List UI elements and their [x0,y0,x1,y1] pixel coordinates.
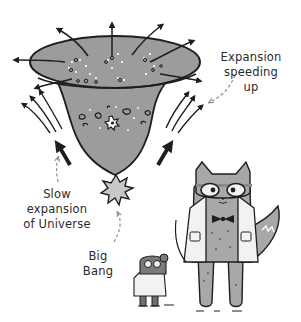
left-expansion-arrows [23,91,62,133]
label-line: up [210,80,292,95]
universe-expansion-illustration: Expansion speeding up Slow expansion of … [0,0,301,322]
label-big-bang: Big Bang [78,249,118,279]
label-line: Slow [14,187,100,202]
label-slow-expansion: Slow expansion of Universe [14,187,100,232]
label-line: of Universe [14,217,100,232]
starburst-icon [101,175,133,205]
label-line: Big [78,249,118,264]
illustration-canvas [0,0,301,322]
right-expansion-arrows [166,93,202,133]
cat-scientist [175,162,279,311]
universe-funnel [30,36,200,175]
label-line: Bang [78,264,118,279]
mouse-scientist [134,254,174,306]
label-expansion-speeding-up: Expansion speeding up [210,50,292,95]
label-line: expansion [14,202,100,217]
label-line: speeding [210,65,292,80]
label-line: Expansion [210,50,292,65]
